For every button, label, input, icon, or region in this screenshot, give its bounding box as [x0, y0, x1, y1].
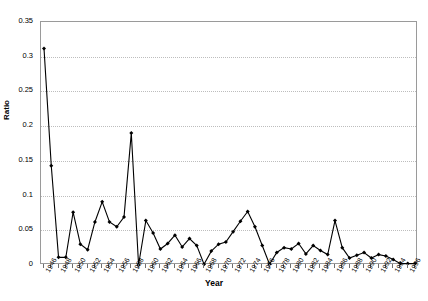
- data-series-line: [41, 22, 418, 265]
- x-axis-title: Year: [0, 278, 428, 288]
- data-point-marker: [333, 219, 337, 223]
- chart-container: Ratio 00.050.10.150.20.250.30.35 1946194…: [0, 0, 428, 301]
- y-axis-tick-label: 0.05: [0, 225, 33, 233]
- y-axis-tick-label: 0.1: [0, 191, 33, 199]
- data-point-marker: [49, 164, 53, 168]
- y-axis-tick-label: 0.2: [0, 121, 33, 129]
- data-point-marker: [100, 200, 104, 204]
- data-point-marker: [260, 244, 264, 248]
- data-point-marker: [129, 131, 133, 135]
- y-axis-tick-label: 0.3: [0, 52, 33, 60]
- series-polyline: [44, 48, 415, 265]
- data-point-marker: [71, 210, 75, 214]
- data-point-marker: [253, 225, 257, 229]
- y-axis-tick-label: 0.35: [0, 17, 33, 25]
- y-axis-tick-label: 0.25: [0, 86, 33, 94]
- data-point-marker: [42, 46, 46, 50]
- y-axis-tick-label: 0.15: [0, 156, 33, 164]
- plot-area: [40, 21, 417, 264]
- data-point-marker: [377, 253, 381, 257]
- data-point-marker: [93, 220, 97, 224]
- y-axis-tick-labels: 00.050.10.150.20.250.30.35: [0, 0, 36, 301]
